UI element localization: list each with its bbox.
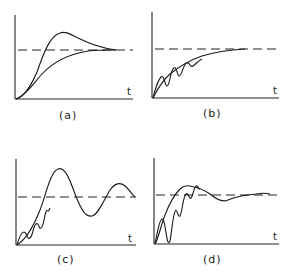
panel-label: (d) — [203, 253, 222, 266]
smooth-curve — [153, 49, 245, 98]
t-axis-label: t — [127, 86, 131, 97]
settling-curve — [155, 186, 270, 244]
panel-label: (b) — [203, 107, 222, 120]
panel-c: t (c) — [16, 159, 136, 266]
oscillating-curve — [153, 59, 202, 98]
panel-label: (a) — [59, 109, 77, 122]
t-axis-label: t — [273, 85, 277, 96]
oscillating-response-curve — [17, 169, 135, 245]
overshoot-curve — [16, 32, 116, 99]
ripple-curve — [17, 208, 50, 245]
panel-label: (c) — [57, 253, 75, 266]
t-axis-label: t — [128, 233, 132, 244]
monotonic-curve — [16, 50, 116, 99]
t-axis-label: t — [273, 231, 277, 242]
panel-d: t (d) — [154, 158, 279, 266]
panel-b: t (b) — [152, 12, 279, 120]
panel-a: t (a) — [15, 15, 133, 122]
figure-canvas: t (a) t (b) t (c) t (d) — [0, 0, 290, 275]
